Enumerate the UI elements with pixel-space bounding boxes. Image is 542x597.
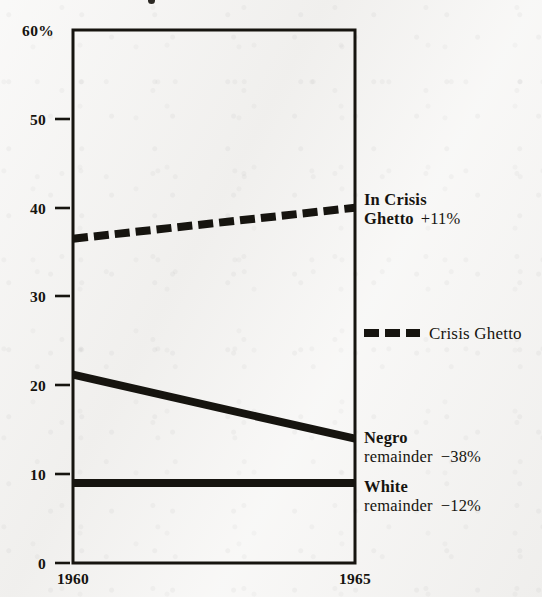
- annotation-white-remainder-value: −12%: [441, 496, 481, 515]
- series-line-negro-remainder: [73, 375, 355, 439]
- annotation-white-remainder-line1: White: [364, 477, 481, 496]
- legend-dash-swatch-svg: [364, 327, 420, 339]
- y-axis-label-30: 30: [8, 288, 46, 306]
- y-axis-ticks: [55, 119, 70, 563]
- annotation-white-remainder-label: remainder: [364, 496, 433, 515]
- annotation-crisis-ghetto-line2: Ghetto+11%: [364, 209, 461, 229]
- annotation-negro-remainder-value: −38%: [441, 447, 481, 466]
- x-axis-label-1960: 1960: [43, 570, 103, 588]
- annotation-negro-remainder-line1: Negro: [364, 428, 481, 447]
- annotation-white-remainder-line2: remainder−12%: [364, 496, 481, 516]
- series-line-crisis-ghetto: [73, 208, 355, 239]
- legend: Crisis Ghetto: [364, 324, 522, 344]
- y-axis-label-50: 50: [8, 111, 46, 129]
- annotation-white-remainder: White remainder−12%: [364, 477, 481, 516]
- annotation-crisis-ghetto-label: Ghetto: [364, 209, 414, 228]
- y-axis-label-0: 0: [8, 555, 46, 573]
- y-axis-label-20: 20: [8, 377, 46, 395]
- y-axis-label-60: 60%: [8, 22, 54, 40]
- x-axis-label-1965: 1965: [325, 570, 385, 588]
- y-axis-label-10: 10: [8, 466, 46, 484]
- annotation-crisis-ghetto: In Crisis Ghetto+11%: [364, 190, 461, 229]
- y-axis-label-40: 40: [8, 200, 46, 218]
- annotation-negro-remainder: Negro remainder−38%: [364, 428, 481, 467]
- legend-swatch-dashed-icon: [364, 325, 420, 344]
- annotation-crisis-ghetto-line1: In Crisis: [364, 190, 461, 209]
- annotation-negro-remainder-label: remainder: [364, 447, 433, 466]
- chart-figure: 60% 50 40 30 20 10 0 1960 1965 In Crisis…: [0, 0, 542, 597]
- annotation-crisis-ghetto-value: +11%: [421, 209, 461, 228]
- legend-label-crisis-ghetto: Crisis Ghetto: [429, 324, 522, 344]
- annotation-negro-remainder-line2: remainder−38%: [364, 447, 481, 467]
